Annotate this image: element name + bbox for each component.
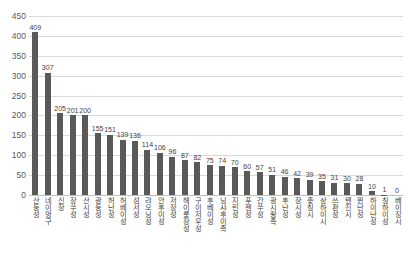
x-label-slot: 충칭시 (303, 197, 315, 259)
bar[interactable] (232, 167, 238, 195)
bar-value-label: 136 (129, 132, 141, 139)
x-axis-tick-label: 헤이룽장성 (181, 197, 188, 232)
x-axis-tick-labels: 산둥성네이멍구신장장쑤성산시성광둥성허난성허베이성섬서성랴오닝성안후이성저장성헤… (29, 197, 403, 259)
x-label-slot: 네이멍구 (41, 197, 53, 259)
bar-slot[interactable]: 74 (216, 16, 228, 195)
bar-slot[interactable]: 201 (66, 16, 78, 195)
x-label-slot: 톈진시 (341, 197, 353, 259)
x-label-slot: 허난성 (104, 197, 116, 259)
bar[interactable] (369, 191, 375, 195)
bar-slot[interactable]: 151 (104, 16, 116, 195)
bar-slot[interactable]: 28 (353, 16, 365, 195)
bar[interactable] (70, 115, 76, 195)
bar-slot[interactable]: 155 (91, 16, 103, 195)
x-axis-tick-label: 푸젠성 (244, 197, 251, 218)
bar-slot[interactable]: 205 (54, 16, 66, 195)
bar-slot[interactable]: 60 (241, 16, 253, 195)
bar-slot[interactable]: 1 (378, 16, 390, 195)
bar-value-label: 106 (154, 144, 166, 151)
bar[interactable] (169, 157, 175, 195)
y-axis-tick-label: 200 (0, 111, 26, 120)
bar-slot[interactable]: 51 (266, 16, 278, 195)
bar[interactable] (107, 135, 113, 195)
x-label-slot: 신장 (54, 197, 66, 259)
bar[interactable] (294, 178, 300, 195)
bar[interactable] (244, 171, 250, 195)
bar-slot[interactable]: 31 (328, 16, 340, 195)
bar[interactable] (319, 181, 325, 195)
bar-series: 4093072052012001551511391361141069687827… (29, 16, 403, 195)
bar-slot[interactable]: 39 (303, 16, 315, 195)
y-axis-tick-label: 400 (0, 32, 26, 41)
bar[interactable] (282, 177, 288, 195)
x-label-slot: 산둥성 (29, 197, 41, 259)
bar-slot[interactable]: 87 (179, 16, 191, 195)
bar[interactable] (120, 140, 126, 195)
bar-value-label: 57 (256, 164, 264, 171)
bar-value-label: 60 (243, 163, 251, 170)
bar-value-label: 409 (29, 24, 41, 31)
bar[interactable] (331, 183, 337, 195)
bar-slot[interactable]: 139 (116, 16, 128, 195)
bar-slot[interactable]: 114 (141, 16, 153, 195)
bar-value-label: 82 (193, 154, 201, 161)
x-axis-tick-label: 랴오닝성 (144, 197, 151, 225)
bar[interactable] (45, 73, 51, 195)
bar-value-label: 51 (268, 166, 276, 173)
bar[interactable] (57, 113, 63, 195)
bar[interactable] (356, 184, 362, 195)
bar[interactable] (144, 150, 150, 195)
bar[interactable] (82, 115, 88, 195)
bar[interactable] (32, 32, 38, 195)
bar-slot[interactable]: 30 (341, 16, 353, 195)
x-label-slot: 푸젠성 (241, 197, 253, 259)
x-axis-tick-label: 칭하이성 (381, 197, 388, 225)
bar[interactable] (257, 172, 263, 195)
bar-slot[interactable]: 200 (79, 16, 91, 195)
y-axis-tick-label: 50 (0, 171, 26, 180)
bar-slot[interactable]: 35 (316, 16, 328, 195)
x-label-slot: 광둥성 (91, 197, 103, 259)
bar[interactable] (132, 141, 138, 195)
bar-slot[interactable]: 46 (278, 16, 290, 195)
bar-slot[interactable]: 409 (29, 16, 41, 195)
bar[interactable] (95, 133, 101, 195)
bar[interactable] (269, 175, 275, 195)
bar-slot[interactable]: 57 (253, 16, 265, 195)
bar-value-label: 1 (382, 186, 386, 193)
bar-slot[interactable]: 307 (41, 16, 53, 195)
x-axis-tick-label: 장쑤성 (69, 197, 76, 218)
bar[interactable] (157, 153, 163, 195)
plot-area: 4093072052012001551511391361141069687827… (29, 16, 403, 195)
bar-slot[interactable]: 96 (166, 16, 178, 195)
x-label-slot: 닝샤후이족 (216, 197, 228, 259)
x-axis-tick-label: 네이멍구 (44, 197, 51, 225)
bar-slot[interactable]: 42 (291, 16, 303, 195)
bar[interactable] (307, 180, 313, 196)
bar-value-label: 139 (117, 131, 129, 138)
bar-slot[interactable]: 106 (154, 16, 166, 195)
x-label-slot: 칭하이성 (378, 197, 390, 259)
x-label-slot: 허베이성 (116, 197, 128, 259)
bar-slot[interactable]: 10 (366, 16, 378, 195)
bar-value-label: 205 (54, 105, 66, 112)
bar-value-label: 307 (42, 64, 54, 71)
bar[interactable] (344, 183, 350, 195)
bar-slot[interactable]: 82 (191, 16, 203, 195)
bar-value-label: 0 (395, 187, 399, 194)
bar-value-label: 70 (231, 159, 239, 166)
x-axis-tick-label: 허베이성 (119, 197, 126, 225)
bar[interactable] (219, 166, 225, 195)
bar-chart: 4093072052012001551511391361141069687827… (0, 0, 408, 261)
bar-slot[interactable]: 70 (229, 16, 241, 195)
x-axis-tick-label: 섬서성 (131, 197, 138, 218)
bar-slot[interactable]: 136 (129, 16, 141, 195)
y-axis-tick-label: 350 (0, 52, 26, 61)
bar-slot[interactable]: 0 (391, 16, 403, 195)
bar[interactable] (182, 160, 188, 195)
bar[interactable] (207, 165, 213, 195)
bar-slot[interactable]: 75 (204, 16, 216, 195)
x-axis-tick-label: 베이징시 (393, 197, 400, 225)
x-label-slot: 후난성 (278, 197, 290, 259)
bar[interactable] (194, 162, 200, 195)
